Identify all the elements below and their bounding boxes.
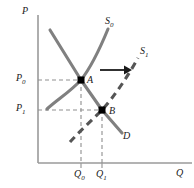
y-tick-label-p0-sub: 0 — [22, 78, 26, 86]
x-tick-label-q0: Q0 — [74, 169, 85, 182]
curve-label-s1-sub: 1 — [145, 51, 149, 59]
demand-curve — [50, 30, 122, 133]
equilibrium-point-b — [99, 107, 106, 114]
curve-label-s0-sub: 0 — [110, 21, 114, 29]
supply-demand-chart: P Q P0 P1 Q0 Q1 S0 S1 D A B — [0, 0, 194, 188]
y-tick-label-p1: P1 — [16, 103, 26, 116]
y-tick-label-p1-sub: 1 — [22, 108, 26, 116]
curve-label-d: D — [123, 131, 130, 141]
y-tick-label-p0: P0 — [16, 73, 26, 86]
shift-arrow-icon — [100, 66, 132, 75]
x-tick-label-q1-sub: 1 — [103, 174, 107, 182]
chart-canvas — [0, 0, 194, 188]
x-tick-label-q1: Q1 — [96, 169, 107, 182]
point-label-b: B — [109, 106, 115, 116]
curve-label-s0: S0 — [105, 16, 114, 29]
point-label-a: A — [87, 75, 93, 85]
x-tick-label-q0-sub: 0 — [81, 174, 85, 182]
y-axis-label: P — [22, 6, 28, 16]
x-axis-label: Q — [176, 168, 183, 178]
equilibrium-point-a — [78, 77, 85, 84]
curve-label-s1: S1 — [140, 46, 149, 59]
